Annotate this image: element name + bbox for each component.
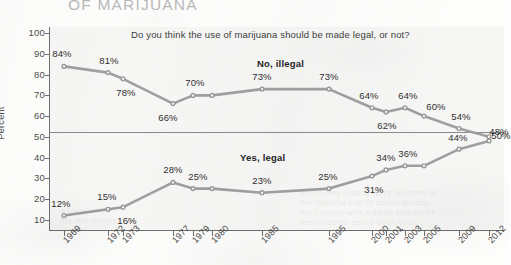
chart-headline: OF MARIJUANA xyxy=(68,0,198,14)
value-label-yes-legal: 34% xyxy=(376,151,395,162)
series-label-yes-legal: Yes, legal xyxy=(240,152,285,163)
value-label-yes-legal: 15% xyxy=(97,191,116,202)
series-label-no-illegal: No, illegal xyxy=(257,58,304,69)
value-label-no-illegal: 64% xyxy=(398,89,417,100)
value-label-no-illegal: 64% xyxy=(359,89,378,100)
value-label-yes-legal: 48% xyxy=(489,125,508,136)
y-tick-mark xyxy=(45,199,49,200)
value-label-no-illegal: 70% xyxy=(185,77,204,88)
value-label-yes-legal: 16% xyxy=(117,215,136,226)
value-label-no-illegal: 81% xyxy=(99,54,118,65)
value-label-yes-legal: 31% xyxy=(364,184,383,195)
value-label-no-illegal: 62% xyxy=(377,119,396,130)
value-label-yes-legal: 44% xyxy=(448,132,467,143)
y-tick-mark xyxy=(45,178,49,179)
y-tick-mark xyxy=(45,116,49,117)
y-tick-mark xyxy=(45,220,49,221)
value-label-yes-legal: 12% xyxy=(51,197,70,208)
y-tick-mark xyxy=(45,75,49,76)
value-label-yes-legal: 36% xyxy=(398,147,417,158)
value-label-no-illegal: 84% xyxy=(52,48,71,59)
y-tick-mark xyxy=(45,95,49,96)
value-label-yes-legal: 28% xyxy=(163,164,182,175)
y-tick-mark xyxy=(45,54,49,55)
value-label-no-illegal: 78% xyxy=(116,86,135,97)
y-tick-mark xyxy=(45,158,49,159)
value-label-no-illegal: 54% xyxy=(451,110,470,121)
value-label-no-illegal: 73% xyxy=(319,71,338,82)
y-tick-mark xyxy=(45,33,49,34)
value-label-no-illegal: 60% xyxy=(426,101,445,112)
chart-subtitle: Do you think the use of marijuana should… xyxy=(131,29,410,40)
y-tick-mark xyxy=(45,137,49,138)
value-label-yes-legal: 25% xyxy=(318,170,337,181)
value-label-yes-legal: 23% xyxy=(252,174,271,185)
value-label-no-illegal: 73% xyxy=(252,71,271,82)
value-label-no-illegal: 66% xyxy=(158,111,177,122)
value-label-yes-legal: 25% xyxy=(188,170,207,181)
